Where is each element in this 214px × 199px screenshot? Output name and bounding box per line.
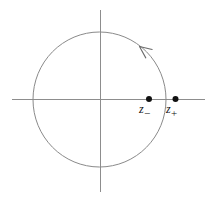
pole-label-z-minus-base: z	[139, 102, 144, 116]
pole-marker-z-minus	[146, 96, 152, 102]
pole-label-z-minus-subscript: −	[144, 108, 150, 119]
complex-plane-figure: z− z+	[0, 0, 214, 199]
pole-label-z-minus: z−	[139, 103, 150, 119]
pole-label-z-plus-base: z	[166, 102, 171, 116]
pole-marker-z-plus	[173, 96, 179, 102]
figure-canvas	[0, 0, 214, 199]
pole-label-z-plus-subscript: +	[171, 108, 177, 119]
pole-label-z-plus: z+	[166, 103, 177, 119]
